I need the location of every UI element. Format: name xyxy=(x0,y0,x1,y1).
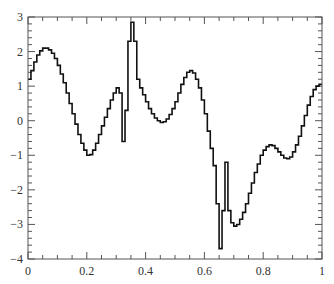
y-tick-label: −4 xyxy=(10,252,23,266)
x-tick-label: 0.4 xyxy=(138,264,153,278)
x-tick-label: 0 xyxy=(25,264,31,278)
y-tick-label: −1 xyxy=(10,148,23,162)
y-tick-label: 1 xyxy=(17,79,23,93)
y-tick-label: 2 xyxy=(17,45,23,59)
plot-background xyxy=(0,0,334,284)
x-tick-label: 1 xyxy=(319,264,325,278)
x-tick-label: 0.8 xyxy=(256,264,271,278)
x-tick-label: 0.2 xyxy=(79,264,94,278)
x-tick-label: 0.6 xyxy=(197,264,212,278)
step-histogram-chart: 00.20.40.60.81 −4−3−2−10123 xyxy=(0,0,334,284)
y-tick-label: −2 xyxy=(10,183,23,197)
y-tick-label: 3 xyxy=(17,10,23,24)
y-tick-label: −3 xyxy=(10,217,23,231)
y-tick-label: 0 xyxy=(17,114,23,128)
